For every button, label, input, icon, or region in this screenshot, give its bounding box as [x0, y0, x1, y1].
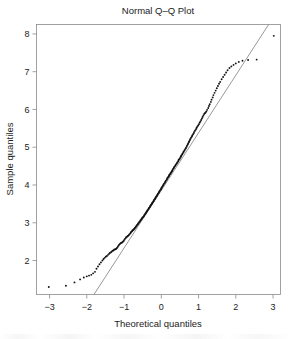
qq-data-point: [225, 72, 227, 74]
x-tick-label: 2: [233, 302, 238, 312]
qq-data-point: [86, 275, 88, 277]
qq-data-point: [217, 85, 219, 87]
qq-data-point: [94, 271, 96, 273]
qq-data-point: [221, 78, 223, 80]
x-axis-title: Theoretical quantiles: [114, 318, 202, 329]
y-tick-label: 8: [24, 29, 29, 39]
qq-data-point: [242, 60, 244, 62]
qq-data-point: [210, 101, 212, 103]
qq-data-point: [238, 61, 240, 63]
x-tick-label: −2: [82, 302, 92, 312]
x-tick-label: −3: [44, 302, 54, 312]
chart-title: Normal Q–Q Plot: [122, 5, 195, 16]
qq-reference-line-group: [94, 25, 269, 295]
qq-data-point: [229, 67, 231, 69]
y-tick-label: 4: [24, 180, 29, 190]
qq-data-point: [65, 285, 67, 287]
normal-qq-plot-chart: Normal Q–Q Plot −3−2−10123 2345678 Theor…: [0, 0, 291, 339]
qq-data-point: [79, 278, 81, 280]
qq-data-point: [90, 274, 92, 276]
qq-data-point: [211, 99, 213, 101]
chart-title-group: Normal Q–Q Plot: [122, 5, 195, 16]
qq-data-point: [215, 90, 217, 92]
x-axis-tick-marks: [50, 295, 274, 299]
y-axis-title-group: Sample quantiles: [4, 122, 15, 195]
x-tick-label: −1: [119, 302, 129, 312]
qq-data-point: [273, 35, 275, 37]
qq-data-point: [230, 65, 232, 67]
qq-data-point: [99, 263, 101, 265]
qq-data-point: [97, 266, 99, 268]
qq-data-point: [207, 107, 209, 109]
y-tick-label: 2: [24, 256, 29, 266]
qq-data-point: [101, 260, 103, 262]
qq-data-point: [208, 105, 210, 107]
qq-data-point: [233, 64, 235, 66]
qq-data-point: [227, 69, 229, 71]
x-axis-title-group: Theoretical quantiles: [114, 318, 202, 329]
qq-data-point: [219, 81, 221, 83]
x-tick-label: 3: [271, 302, 276, 312]
qq-data-point: [48, 286, 50, 288]
qq-data-point: [213, 94, 215, 96]
qq-data-point: [218, 83, 220, 85]
qq-data-point: [206, 109, 208, 111]
qq-data-point: [235, 62, 237, 64]
qq-data-point: [96, 268, 98, 270]
x-axis-tick-labels: −3−2−10123: [44, 302, 275, 312]
qq-reference-line: [94, 25, 269, 295]
qq-data-point: [209, 103, 211, 105]
qq-data-point: [222, 76, 224, 78]
qq-data-point: [247, 59, 249, 61]
plot-panel-border: [37, 25, 281, 295]
x-tick-label: 0: [159, 302, 164, 312]
y-tick-label: 6: [24, 105, 29, 115]
qq-data-point: [224, 74, 226, 76]
y-tick-label: 7: [24, 67, 29, 77]
qq-data-point: [256, 59, 258, 61]
qq-data-point: [212, 96, 214, 98]
qq-data-point: [92, 272, 94, 274]
qq-data-point: [74, 281, 76, 283]
qq-data-point: [83, 277, 85, 279]
qq-data-points: [48, 35, 275, 288]
page-edge-artifact: [0, 334, 291, 339]
y-axis-tick-marks: [33, 34, 37, 261]
y-axis-title: Sample quantiles: [4, 122, 15, 195]
y-tick-label: 3: [24, 218, 29, 228]
y-axis-tick-labels: 2345678: [24, 29, 29, 266]
plot-panel: [37, 25, 281, 295]
qq-data-point: [100, 261, 102, 263]
y-tick-label: 5: [24, 142, 29, 152]
qq-data-point: [214, 92, 216, 94]
qq-data-point: [216, 87, 218, 89]
x-tick-label: 1: [196, 302, 201, 312]
qq-data-point: [88, 275, 90, 277]
qq-plot-figure: Normal Q–Q Plot −3−2−10123 2345678 Theor…: [0, 0, 291, 339]
